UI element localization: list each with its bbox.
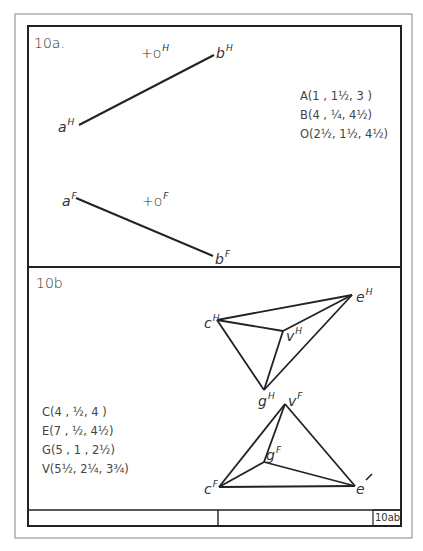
- label-c-front: cF: [204, 480, 218, 496]
- problem-a-title: 10a.: [34, 36, 65, 50]
- arrow-mark-icon: [366, 474, 372, 480]
- coord-B: B(4 , ¼, 4½): [300, 106, 388, 125]
- coord-O: O(2½, 1½, 4½): [300, 125, 388, 144]
- label-g-top: gH: [258, 392, 275, 408]
- label-a-top: aH: [58, 118, 74, 134]
- label-v-front: vF: [288, 392, 302, 408]
- label-a-front: aF: [62, 192, 77, 208]
- pyramid-top-view: [217, 295, 352, 390]
- edge-ev-top: [283, 295, 352, 331]
- label-e-top: eH: [356, 288, 372, 304]
- coord-C: C(4 , ½, 4 ): [42, 403, 129, 422]
- coord-V: V(5½, 2¼, 3¾): [42, 460, 129, 479]
- label-o-top: +oH: [141, 44, 169, 60]
- label-b-top: bH: [216, 44, 233, 60]
- edge-cv-top: [217, 320, 283, 331]
- edge-ce-front: [219, 486, 355, 487]
- label-b-front: bF: [215, 250, 230, 266]
- edge-cg-front: [219, 462, 264, 487]
- edge-ev-front: [285, 404, 355, 486]
- problem-b-title: 10b: [36, 276, 63, 290]
- pyramid-front-view: [219, 404, 355, 487]
- coord-G: G(5 , 1 , 2½): [42, 441, 129, 460]
- label-v-top: vH: [286, 327, 302, 343]
- edge-cg-top: [217, 320, 264, 390]
- coord-A: A(1 , 1½, 3 ): [300, 87, 388, 106]
- label-o-front: +oF: [142, 192, 168, 208]
- coord-E: E(7 , ½, 4½): [42, 422, 129, 441]
- label-g-front: gF: [266, 446, 281, 462]
- edge-gv-top: [264, 331, 283, 390]
- coordinates-a: A(1 , 1½, 3 ) B(4 , ¼, 4½) O(2½, 1½, 4½): [300, 87, 388, 144]
- sheet-number: 10ab: [375, 513, 400, 523]
- label-e-front: e: [356, 482, 365, 496]
- line-ab-top-view: [79, 55, 214, 125]
- label-c-top: cH: [204, 314, 219, 330]
- coordinates-b: C(4 , ½, 4 ) E(7 , ½, 4½) G(5 , 1 , 2½) …: [42, 403, 129, 479]
- edge-eg-front: [264, 462, 355, 486]
